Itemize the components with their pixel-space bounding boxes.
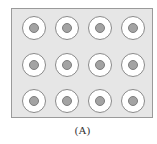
well-core (62, 96, 72, 106)
well-r2c2 (55, 53, 79, 77)
well-r3c2 (55, 89, 79, 113)
well-core (62, 23, 72, 33)
well-r3c4 (121, 89, 145, 113)
well-r2c4 (121, 53, 145, 77)
well-r1c1 (22, 16, 46, 40)
figure-label: (A) (0, 124, 157, 136)
well-r2c3 (88, 53, 112, 77)
well-plate-panel (11, 8, 153, 118)
well-core (128, 96, 138, 106)
well-r1c2 (55, 16, 79, 40)
well-core (29, 96, 39, 106)
well-core (62, 60, 72, 70)
well-r2c1 (22, 53, 46, 77)
well-r3c3 (88, 89, 112, 113)
well-core (95, 60, 105, 70)
well-core (128, 60, 138, 70)
well-core (95, 96, 105, 106)
well-r1c3 (88, 16, 112, 40)
well-core (29, 60, 39, 70)
well-core (95, 23, 105, 33)
well-core (128, 23, 138, 33)
well-r1c4 (121, 16, 145, 40)
well-core (29, 23, 39, 33)
well-r3c1 (22, 89, 46, 113)
